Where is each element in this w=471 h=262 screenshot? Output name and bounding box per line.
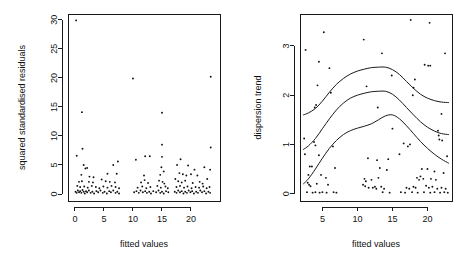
left-x-tick-label: 0 — [72, 214, 77, 224]
left-y-tick-label: 25 — [49, 44, 59, 54]
left-data-point — [182, 173, 184, 175]
right-data-point — [389, 192, 391, 194]
right-data-point — [375, 188, 377, 190]
right-data-point — [333, 191, 335, 193]
left-data-point — [138, 192, 140, 194]
left-data-point — [116, 191, 118, 193]
left-x-tick-label: 5 — [101, 214, 106, 224]
left-data-point — [88, 190, 90, 192]
right-data-point — [409, 143, 411, 145]
left-data-point — [111, 185, 113, 187]
left-y-axis-title: squared standardised residuals — [17, 44, 27, 170]
left-x-tick-label: 10 — [128, 214, 138, 224]
left-data-point — [191, 187, 193, 189]
left-data-point — [177, 190, 179, 192]
left-data-point — [144, 155, 146, 157]
right-data-point — [439, 192, 441, 194]
left-panel-svg: 05101520051015202530fitted valuessquared… — [0, 0, 235, 262]
left-data-point — [144, 190, 146, 192]
right-data-point — [363, 39, 365, 41]
left-data-point — [165, 186, 167, 188]
left-data-point — [149, 155, 151, 157]
right-data-point — [447, 192, 449, 194]
right-data-point — [312, 192, 314, 194]
right-panel-svg: 51015200123fitted valuesdispersion trend — [236, 0, 471, 262]
left-data-point — [145, 187, 147, 189]
left-data-point — [206, 178, 208, 180]
left-data-point — [163, 170, 165, 172]
left-data-point — [202, 183, 204, 185]
right-data-point — [435, 179, 437, 181]
left-data-point — [95, 190, 97, 192]
left-data-point — [189, 191, 191, 193]
left-data-point — [183, 187, 185, 189]
left-data-point — [100, 190, 102, 192]
left-data-point — [117, 161, 119, 163]
left-data-point — [165, 190, 167, 192]
right-x-tick-label: 20 — [422, 214, 432, 224]
right-data-point — [427, 65, 429, 67]
left-data-point — [81, 111, 83, 113]
left-data-point — [112, 164, 114, 166]
right-data-point — [311, 166, 313, 168]
right-data-point — [325, 177, 327, 179]
right-data-point — [335, 192, 337, 194]
left-data-point — [82, 189, 84, 191]
left-data-point — [135, 159, 137, 161]
right-data-point — [386, 169, 388, 171]
right-data-point — [420, 175, 422, 177]
left-data-point — [152, 190, 154, 192]
left-data-point — [181, 190, 183, 192]
left-data-layer — [75, 19, 212, 194]
left-y-tick-label: 10 — [49, 131, 59, 141]
left-x-tick-label: 15 — [157, 214, 167, 224]
right-data-point — [378, 177, 380, 179]
right-plot-frame — [300, 14, 452, 201]
left-data-point — [187, 165, 189, 167]
left-data-point — [174, 191, 176, 193]
left-data-point — [179, 185, 181, 187]
right-data-point — [417, 192, 419, 194]
right-data-point — [403, 142, 405, 144]
left-data-point — [133, 191, 135, 193]
left-data-point — [92, 181, 94, 183]
left-data-point — [140, 181, 142, 183]
left-data-point — [93, 176, 95, 178]
left-y-tick-label: 30 — [49, 15, 59, 25]
right-x-tick-label: 5 — [320, 214, 325, 224]
right-data-point — [414, 79, 416, 81]
left-data-point — [178, 172, 180, 174]
left-data-point — [136, 190, 138, 192]
left-data-point — [140, 190, 142, 192]
left-data-point — [203, 166, 205, 168]
left-data-point — [198, 187, 200, 189]
right-data-point — [443, 191, 445, 193]
left-y-tick-label: 20 — [49, 73, 59, 83]
right-data-point — [316, 183, 318, 185]
left-data-point — [196, 175, 198, 177]
right-data-point — [411, 191, 413, 193]
right-data-point — [371, 179, 373, 181]
left-data-point — [210, 147, 212, 149]
right-data-point — [446, 155, 448, 157]
left-data-point — [76, 185, 78, 187]
right-data-point — [431, 186, 433, 188]
right-data-point — [430, 178, 432, 180]
left-data-point — [187, 186, 189, 188]
right-data-point — [434, 191, 436, 193]
left-data-point — [102, 186, 104, 188]
right-data-point — [303, 138, 305, 140]
right-data-point — [436, 188, 438, 190]
left-data-point — [86, 191, 88, 193]
right-data-point — [383, 188, 385, 190]
left-data-point — [160, 166, 162, 168]
left-data-point — [77, 190, 79, 192]
right-data-point — [365, 180, 367, 182]
left-data-point — [199, 181, 201, 183]
right-data-point — [438, 135, 440, 137]
left-data-point — [76, 155, 78, 157]
left-data-point — [75, 19, 77, 21]
right-data-point — [310, 185, 312, 187]
left-data-point — [167, 187, 169, 189]
right-data-point — [418, 179, 420, 181]
